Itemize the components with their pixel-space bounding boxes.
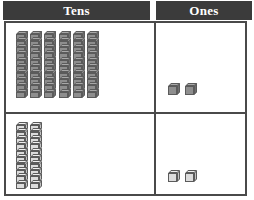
cell-row2-ones bbox=[156, 114, 249, 198]
tens-rod-group bbox=[16, 122, 44, 189]
tens-rod bbox=[16, 122, 28, 189]
block-front-face bbox=[30, 92, 39, 98]
tens-rod bbox=[16, 31, 28, 98]
block-side-face bbox=[25, 180, 28, 190]
block-side-face bbox=[82, 89, 85, 99]
ones-cube bbox=[168, 170, 180, 182]
unit-cube bbox=[73, 89, 85, 99]
unit-cube bbox=[87, 89, 99, 99]
cell-row1-tens bbox=[6, 23, 154, 112]
block-side-face bbox=[194, 170, 197, 182]
column-header-ones: Ones bbox=[156, 1, 252, 20]
block-front-face bbox=[59, 92, 68, 98]
block-side-face bbox=[39, 89, 42, 99]
unit-cube bbox=[16, 89, 28, 99]
tens-rod bbox=[73, 31, 85, 98]
block-front-face bbox=[30, 183, 39, 189]
unit-cube bbox=[30, 180, 42, 190]
column-header-tens: Tens bbox=[3, 1, 150, 20]
block-front-face bbox=[168, 173, 177, 182]
tens-rod bbox=[87, 31, 99, 98]
block-side-face bbox=[25, 89, 28, 99]
ones-cube-group bbox=[168, 83, 202, 95]
tens-rod bbox=[59, 31, 71, 98]
block-front-face bbox=[87, 92, 96, 98]
ones-cube bbox=[185, 83, 197, 95]
block-front-face bbox=[73, 92, 82, 98]
tens-rod bbox=[30, 122, 42, 189]
chart-grid bbox=[4, 21, 247, 196]
block-front-face bbox=[185, 86, 194, 95]
block-side-face bbox=[177, 170, 180, 182]
tens-rod-group bbox=[16, 31, 101, 98]
block-side-face bbox=[53, 89, 56, 99]
ones-cube bbox=[185, 170, 197, 182]
block-front-face bbox=[185, 173, 194, 182]
unit-cube bbox=[59, 89, 71, 99]
unit-cube bbox=[16, 180, 28, 190]
block-side-face bbox=[96, 89, 99, 99]
block-side-face bbox=[68, 89, 71, 99]
ones-cube-group bbox=[168, 170, 202, 182]
block-front-face bbox=[44, 92, 53, 98]
cell-row2-tens bbox=[6, 114, 154, 198]
place-value-chart: Tens Ones bbox=[0, 0, 254, 200]
tens-rod bbox=[30, 31, 42, 98]
cell-row1-ones bbox=[156, 23, 249, 112]
block-side-face bbox=[39, 180, 42, 190]
block-front-face bbox=[16, 183, 25, 189]
unit-cube bbox=[44, 89, 56, 99]
unit-cube bbox=[30, 89, 42, 99]
ones-cube bbox=[168, 83, 180, 95]
tens-rod bbox=[44, 31, 56, 98]
chart-header: Tens Ones bbox=[0, 0, 254, 20]
block-front-face bbox=[16, 92, 25, 98]
block-side-face bbox=[177, 83, 180, 95]
block-front-face bbox=[168, 86, 177, 95]
block-side-face bbox=[194, 83, 197, 95]
